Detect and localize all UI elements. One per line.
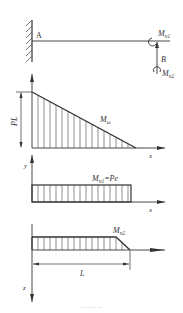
cantilever-beam: A Mn1 B Mn2 <box>26 20 174 79</box>
x-axis-label: x <box>148 206 153 214</box>
moment-curve <box>32 92 136 148</box>
rect-hatching <box>38 185 128 202</box>
up-arrow-icon <box>30 74 34 82</box>
x-arrow-icon <box>150 248 165 252</box>
wall-hatching <box>26 20 32 62</box>
mn2-curve <box>32 237 130 250</box>
caption: · · · · · · · · <box>80 305 102 310</box>
mn2-hatching <box>38 237 122 250</box>
pl-label: PL <box>10 116 19 127</box>
l-label: L <box>79 269 85 278</box>
point-b-label: B <box>161 55 166 64</box>
x-arrow-icon <box>157 146 165 150</box>
bending-moment-diagram: x PL Mω <box>10 74 165 160</box>
x-axis-label: x <box>148 152 153 160</box>
mn1-pe-label: Mn1=Pe <box>91 174 118 184</box>
moment-n1-arc-icon <box>149 38 156 46</box>
moment-n2-diagram: z Mn2 L <box>22 224 165 302</box>
m-omega-label: Mω <box>99 115 111 125</box>
moment-n2-label: Mn2 <box>161 69 174 79</box>
point-a-label: A <box>36 31 42 40</box>
mn2-label: Mn2 <box>112 226 125 236</box>
y-arrow-icon <box>30 155 34 163</box>
z-arrow-icon <box>30 294 34 302</box>
torsion-diagram: y x Mn1=Pe <box>23 155 165 214</box>
z-axis-label: z <box>22 284 26 292</box>
x-arrow-icon <box>157 200 165 204</box>
beam-diagram-figure: A Mn1 B Mn2 x <box>0 0 183 313</box>
moment-n1-label: Mn1 <box>157 29 170 39</box>
y-axis-label: y <box>23 162 28 170</box>
